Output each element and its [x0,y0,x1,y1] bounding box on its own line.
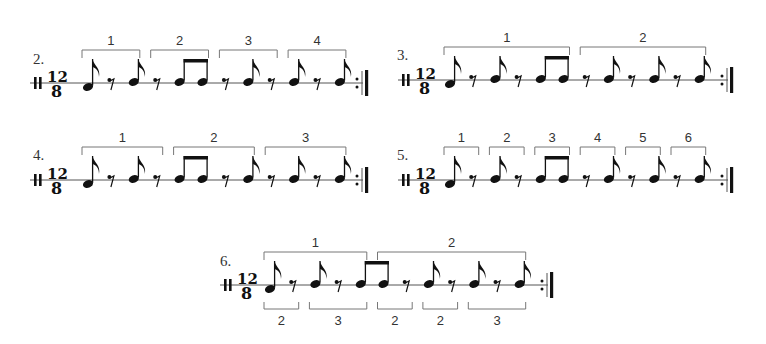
grouping-number: 1 [107,33,114,48]
rest-stroke [110,79,114,90]
time-signature-bottom: 8 [419,179,430,198]
exercise-number: 5. [397,147,408,163]
grouping-number: 2 [278,313,285,328]
exercise-5: 5.128123456 [397,130,733,198]
repeat-dot [356,86,359,89]
eighth-flag [93,59,100,77]
rest-stroke [156,79,160,90]
rest-stroke [676,76,680,87]
eighth-flag [320,261,327,279]
rhythm-exercises-score: 2.12812343.128124.1281235.1281234566.128… [0,0,766,344]
rest-stroke [676,176,680,187]
repeat-dot [356,183,359,186]
eighth-flag [138,59,145,77]
grouping-number: 2 [448,235,455,250]
barline-thick [550,272,553,298]
eighth-flag [479,261,486,279]
percussion-clef-bar [407,74,410,86]
percussion-clef-bar [229,279,232,291]
grouping-bracket-above [82,147,163,155]
percussion-clef-bar [402,74,405,86]
grouping-bracket-above [265,147,346,155]
rest-stroke [451,281,455,292]
eighth-flag [500,56,507,74]
rest-stroke [631,176,635,187]
eighth-flag [345,59,352,77]
grouping-bracket-above [580,147,615,155]
grouping-bracket-below [378,302,413,309]
rest-stroke [585,176,589,187]
grouping-number: 6 [685,130,692,145]
rest-stroke [472,76,476,87]
barline-thick [365,167,368,193]
percussion-clef-bar [224,279,227,291]
grouping-bracket-above [535,147,570,155]
eighth-flag [500,156,507,174]
exercise-6: 6.1281223223 [220,235,553,328]
grouping-number: 4 [313,33,320,48]
eighth-flag [253,156,260,174]
rest-stroke [270,79,274,90]
grouping-bracket-above [444,47,570,55]
note-beam [184,156,208,160]
note-beam [545,56,569,60]
rest-stroke [472,176,476,187]
exercise-number: 4. [33,147,44,163]
rest-stroke [270,176,274,187]
exercise-3: 3.12812 [397,30,733,98]
grouping-bracket-above [151,50,209,58]
eighth-flag [434,261,441,279]
rest-stroke [224,79,228,90]
percussion-clef-bar [39,77,42,89]
exercise-number: 6. [220,253,231,269]
eighth-flag [299,156,306,174]
grouping-number: 5 [639,130,646,145]
grouping-number: 1 [119,130,126,145]
eighth-flag [524,261,531,279]
grouping-bracket-above [219,50,277,58]
grouping-number: 4 [594,130,601,145]
time-signature-bottom: 8 [419,79,430,98]
percussion-clef-bar [34,77,37,89]
time-signature-bottom: 8 [51,82,62,101]
note-beam [365,261,389,265]
rest-stroke [316,79,320,90]
repeat-dot [356,175,359,178]
rest-stroke [110,176,114,187]
rest-stroke [631,76,635,87]
eighth-flag [93,156,100,174]
grouping-number: 2 [437,313,444,328]
grouping-bracket-below [468,302,525,309]
eighth-flag [659,56,666,74]
eighth-flag [614,56,621,74]
repeat-dot [721,83,724,86]
percussion-clef-bar [402,174,405,186]
note-beam [545,156,569,160]
repeat-dot [721,175,724,178]
grouping-number: 1 [503,30,510,45]
rest-stroke [405,281,409,292]
eighth-flag [704,156,711,174]
rest-stroke [337,281,341,292]
grouping-number: 1 [458,130,465,145]
grouping-bracket-above [264,252,367,260]
grouping-number: 2 [210,130,217,145]
barline-thick [730,67,733,93]
percussion-clef-bar [39,174,42,186]
grouping-bracket-above [288,50,346,58]
grouping-bracket-above [378,252,526,260]
repeat-dot [721,75,724,78]
eighth-flag [299,59,306,77]
grouping-bracket-above [489,147,524,155]
rest-stroke [496,281,500,292]
rest-stroke [517,176,521,187]
grouping-bracket-above [444,147,479,155]
grouping-number: 3 [302,130,309,145]
eighth-flag [275,261,282,279]
barline-thick [365,70,368,96]
percussion-clef-bar [34,174,37,186]
note-beam [184,59,208,63]
exercise-4: 4.128123 [30,130,368,198]
grouping-number: 3 [549,130,556,145]
eighth-flag [455,56,462,74]
